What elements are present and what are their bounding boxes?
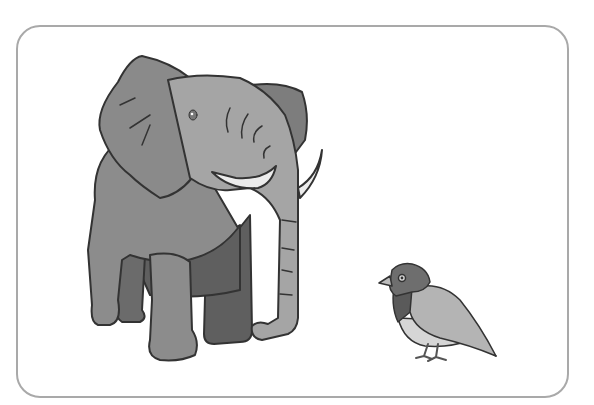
bird-illustration: [379, 264, 496, 361]
elephant-illustration: [88, 56, 322, 360]
illustration-scene: [0, 0, 594, 405]
